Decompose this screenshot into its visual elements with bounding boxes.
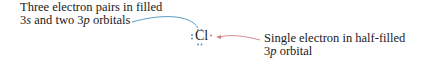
single-electron-arrowhead xyxy=(216,35,221,39)
electron-dot xyxy=(191,38,193,40)
paired-electrons-annotation: Three electron pairs in filled 3s and tw… xyxy=(20,1,162,27)
chlorine-symbol: Cl xyxy=(195,29,208,43)
single-electron-annotation: Single electron in half-filled 3p orbita… xyxy=(264,32,405,58)
electron-dot xyxy=(191,34,193,36)
single-electron-arrow xyxy=(220,36,260,40)
text-fragment: orbitals xyxy=(90,13,131,27)
single-electron-annotation-line2: 3p orbital xyxy=(264,45,405,58)
electron-dot xyxy=(201,44,203,46)
electron-dot xyxy=(197,44,199,46)
text-fragment: and two xyxy=(31,13,77,27)
paired-electrons-annotation-line2: 3s and two 3p orbitals xyxy=(20,14,162,27)
single-electron-dot xyxy=(210,35,212,37)
text-fragment: orbital xyxy=(277,44,313,58)
